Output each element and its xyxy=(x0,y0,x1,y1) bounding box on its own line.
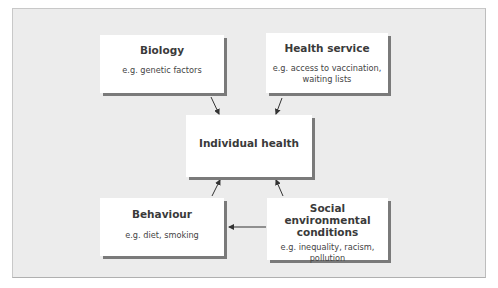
node-health-service: Health service e.g. access to vaccinatio… xyxy=(266,33,388,93)
node-example-line-1: e.g. access to vaccination, xyxy=(266,63,388,74)
arrow-behaviour-to-center xyxy=(212,180,220,196)
node-example-line-2: pollution xyxy=(267,253,388,264)
node-title: Biology xyxy=(100,44,224,56)
node-example-line-1: e.g. inequality, racism, xyxy=(267,242,388,253)
node-title: Behaviour xyxy=(100,208,224,220)
node-example: e.g. genetic factors xyxy=(100,65,224,76)
node-title-line-1: Social environmental xyxy=(267,202,388,226)
arrow-social-to-center xyxy=(276,180,283,196)
center-title: Individual health xyxy=(186,137,312,149)
node-biology: Biology e.g. genetic factors xyxy=(100,35,224,93)
arrow-biology-to-center xyxy=(211,97,219,114)
node-individual-health: Individual health xyxy=(186,115,312,177)
node-example: e.g. diet, smoking xyxy=(100,230,224,241)
arrow-health-service-to-center xyxy=(276,98,282,114)
node-example-line-2: waiting lists xyxy=(266,74,388,85)
node-social-environmental: Social environmental conditions e.g. ine… xyxy=(267,198,388,260)
node-behaviour: Behaviour e.g. diet, smoking xyxy=(100,198,224,256)
node-title-line-2: conditions xyxy=(267,226,388,238)
node-title: Health service xyxy=(266,42,388,54)
